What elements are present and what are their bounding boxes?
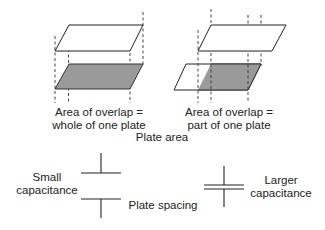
capacitor-symbol-large — [204, 166, 244, 207]
panel-partial-overlap — [174, 9, 286, 103]
label-line: Small — [10, 171, 84, 184]
label-overlap-whole: Area of overlap = whole of one plate — [42, 106, 156, 132]
caption-plate-area: Plate area — [132, 131, 192, 144]
label-small-capacitance: Small capacitance — [10, 171, 84, 197]
top-plate — [55, 25, 143, 51]
bottom-plate-full-overlap — [55, 64, 143, 89]
label-line: Larger — [246, 174, 316, 187]
panel-full-overlap — [55, 12, 143, 103]
label-line: Area of overlap = — [172, 106, 286, 119]
label-line: capacitance — [246, 187, 316, 200]
capacitor-symbol-small — [81, 153, 121, 218]
label-line: Area of overlap = — [42, 106, 156, 119]
label-larger-capacitance: Larger capacitance — [246, 174, 316, 200]
label-overlap-part: Area of overlap = part of one plate — [172, 106, 286, 132]
top-plate — [198, 25, 286, 51]
caption-plate-spacing: Plate spacing — [128, 199, 198, 212]
label-line: capacitance — [10, 184, 84, 197]
